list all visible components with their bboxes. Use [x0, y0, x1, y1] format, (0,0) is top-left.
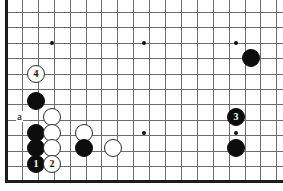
star-point-left — [50, 41, 54, 45]
stone-white-move-4: 4 — [27, 65, 45, 83]
point-label-a: a — [16, 111, 23, 122]
board-edge-left — [5, 0, 8, 183]
grid-line-horizontal — [6, 89, 283, 90]
stone-black-right-low — [227, 139, 245, 157]
go-board-diagram: 4123a — [0, 0, 283, 191]
star-point-right — [234, 41, 238, 45]
star-point-center — [142, 41, 146, 45]
stone-move-number: 4 — [28, 66, 44, 82]
stone-move-number: 3 — [228, 109, 244, 125]
stone-move-number: 2 — [44, 156, 60, 172]
grid-line-horizontal — [6, 12, 283, 13]
stone-black-move-3: 3 — [227, 108, 245, 126]
board-surface: 4123a — [0, 0, 283, 191]
stone-black-upper-right — [242, 49, 260, 67]
stone-move-number: 1 — [28, 156, 44, 172]
star-point-lower-center — [142, 131, 146, 135]
stone-white-move-2: 2 — [43, 155, 61, 173]
stone-black-upper-left — [27, 92, 45, 110]
star-point-lower-right — [234, 131, 238, 135]
grid-line-horizontal — [6, 74, 283, 75]
stone-black-center — [75, 139, 93, 157]
grid-line-horizontal — [6, 104, 283, 105]
board-edge-bottom — [5, 180, 283, 183]
stone-white-center-right — [104, 139, 122, 157]
grid-line-horizontal — [6, 27, 283, 28]
